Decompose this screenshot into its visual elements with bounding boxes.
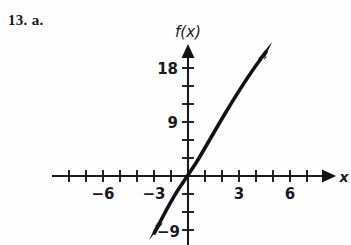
coordinate-graph: −6 −3 3 6 18 9 −9 f(x) x xyxy=(0,0,351,245)
function-curve xyxy=(155,52,267,233)
x-axis-arrowhead xyxy=(322,170,336,183)
x-tick-label--6: −6 xyxy=(91,185,114,203)
x-tick-label--3: −3 xyxy=(142,185,165,203)
y-tick-label-18: 18 xyxy=(157,60,178,78)
y-axis-title: f(x) xyxy=(175,23,201,41)
figure-page: 13. a. xyxy=(0,0,351,245)
y-tick-label-9: 9 xyxy=(168,114,178,132)
y-axis-arrowhead xyxy=(182,44,195,58)
curve-upper-arrowhead xyxy=(258,42,272,61)
x-axis-title: x xyxy=(338,169,349,185)
y-tick-label--9: −9 xyxy=(157,223,180,241)
x-tick-label-6: 6 xyxy=(285,185,295,203)
x-tick-label-3: 3 xyxy=(234,185,244,203)
